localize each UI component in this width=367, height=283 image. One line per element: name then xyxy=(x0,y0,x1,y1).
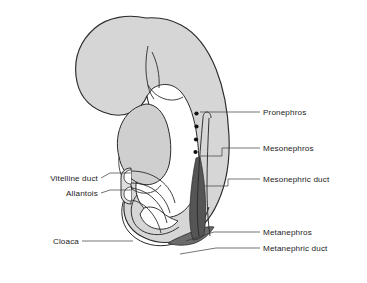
label-mesonephric-duct: Mesonephric duct xyxy=(263,175,330,184)
pronephros-dot xyxy=(194,111,198,115)
label-cloaca: Cloaca xyxy=(53,237,79,246)
label-pronephros: Pronephros xyxy=(263,108,306,117)
diagram-canvas: Vitelline duct Allantois Cloaca Pronephr… xyxy=(0,0,367,283)
label-vitelline-duct: Vitelline duct xyxy=(50,174,98,183)
label-allantois: Allantois xyxy=(66,189,98,198)
pronephros-dot xyxy=(193,150,197,154)
pronephros-dot xyxy=(194,124,198,128)
label-mesonephros: Mesonephros xyxy=(263,144,314,153)
embryo-diagram-figure: Vitelline duct Allantois Cloaca Pronephr… xyxy=(0,0,367,283)
leader-line-metanephric-duct xyxy=(180,248,260,254)
label-metanephric-duct: Metanephric duct xyxy=(263,244,328,253)
label-metanephros: Metanephros xyxy=(263,228,312,237)
pronephros-dot xyxy=(194,137,198,141)
